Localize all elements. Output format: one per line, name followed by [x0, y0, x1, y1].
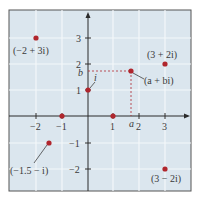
point-1: [110, 113, 115, 118]
x-tick-label: 2: [136, 121, 141, 132]
complex-plane-diagram: −2 −1 1 2 3 3 2 1 −1 −2 b a (−2 + 3i) (3…: [0, 0, 204, 204]
point-label: (−1.5 − i): [10, 165, 48, 177]
point-3-minus-2i: [162, 166, 167, 171]
x-tick-label: 3: [162, 121, 167, 132]
point-i: [85, 87, 90, 92]
point-3-plus-2i: [162, 61, 167, 66]
point-a-plus-bi: [128, 68, 133, 73]
point-label: (a + bi): [144, 75, 174, 87]
x-tick-label: −2: [30, 121, 41, 132]
point-neg1p5-minus-i: [46, 140, 51, 145]
point-label: i: [94, 72, 97, 83]
y-tick-label: 3: [76, 33, 81, 44]
point-neg2-plus-3i: [33, 35, 38, 40]
projection-label-b: b: [78, 67, 83, 78]
x-tick-label: −1: [56, 121, 67, 132]
point-neg1: [59, 113, 64, 118]
point-label: (3 − 2i): [151, 173, 181, 185]
point-label: (3 + 2i): [147, 49, 177, 61]
y-tick-label: 1: [76, 85, 81, 96]
point-label: (−2 + 3i): [13, 45, 49, 57]
x-tick-label: 1: [110, 121, 115, 132]
y-tick-label: −1: [69, 138, 80, 149]
projection-label-a: a: [129, 118, 134, 129]
y-tick-label: −2: [69, 164, 80, 175]
